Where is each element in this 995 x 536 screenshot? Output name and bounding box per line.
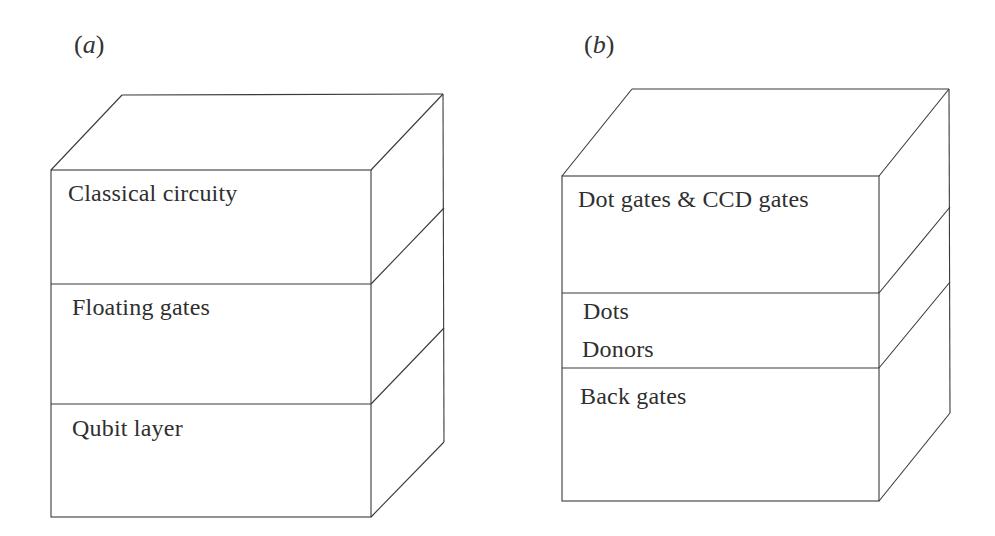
layer-label-back-gates: Back gates	[580, 384, 687, 408]
panel-label-b-letter: b	[593, 30, 606, 59]
cube-a-front-face	[51, 170, 371, 517]
panel-label-b-open: (	[584, 30, 593, 59]
cube-drawings	[0, 0, 995, 536]
layer-label-floating-gates: Floating gates	[72, 295, 210, 319]
panel-label-b: (b)	[584, 32, 614, 58]
panel-label-b-close: )	[606, 30, 615, 59]
cube-b	[562, 89, 950, 501]
panel-label-a-close: )	[96, 30, 105, 59]
layer-label-qubit-layer: Qubit layer	[72, 416, 183, 440]
panel-label-a-open: (	[74, 30, 83, 59]
panel-label-a: (a)	[74, 32, 104, 58]
layer-label-dots: Dots	[583, 299, 629, 323]
panel-label-a-letter: a	[83, 30, 96, 59]
layer-label-classical-circuity: Classical circuity	[68, 181, 238, 205]
layer-label-donors: Donors	[582, 337, 654, 361]
layered-architecture-figure: (a) (b) Classical circuity Floating gate…	[0, 0, 995, 536]
layer-label-dot-gates-ccd-gates: Dot gates & CCD gates	[578, 187, 809, 211]
